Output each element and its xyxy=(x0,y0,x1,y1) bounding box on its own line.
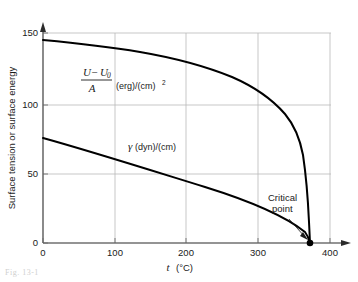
critical-point-leader xyxy=(289,219,308,240)
critical-point-label-line1: Critical xyxy=(268,192,297,203)
x-tick-label-300: 300 xyxy=(250,247,266,258)
y-axis xyxy=(40,22,46,243)
internal-energy-minus: − xyxy=(91,66,98,78)
x-axis-title: t (°C) xyxy=(166,261,193,273)
figure-caption-fragment: Fig. 13-1 xyxy=(5,268,39,277)
y-axis-title: Surface tension or surface energy xyxy=(6,66,17,209)
horizontal-gridlines xyxy=(43,33,331,174)
internal-energy-units-exponent: 2 xyxy=(162,79,166,86)
x-tick-label-100: 100 xyxy=(107,247,123,258)
y-axis-arrowhead xyxy=(40,22,46,32)
curve-surface-tension xyxy=(43,138,310,243)
critical-point-label-line2: point xyxy=(272,203,293,214)
internal-energy-label: U − U 0 A (erg)/(cm) 2 xyxy=(81,66,166,94)
y-tick-label-50: 50 xyxy=(27,168,38,179)
internal-energy-denominator: A xyxy=(88,82,96,94)
y-tick-label-150: 150 xyxy=(22,27,38,38)
gamma-symbol: γ xyxy=(128,140,133,152)
internal-energy-numerator-u0-subscript: 0 xyxy=(107,71,111,80)
x-axis-title-symbol: t xyxy=(166,261,170,273)
critical-point-marker xyxy=(307,240,314,247)
x-axis xyxy=(43,240,351,246)
x-tick-label-200: 200 xyxy=(178,247,194,258)
surface-tension-chart: 0 100 200 300 400 0 50 100 150 Surface t… xyxy=(0,0,358,282)
x-tick-label-0: 0 xyxy=(40,247,45,258)
x-tick-marks xyxy=(43,238,330,243)
y-tick-label-100: 100 xyxy=(22,99,38,110)
x-axis-arrowhead xyxy=(341,240,351,246)
y-tick-label-0: 0 xyxy=(33,237,38,248)
internal-energy-units: (erg)/(cm) xyxy=(116,81,156,91)
surface-tension-label: γ (dyn)/(cm) xyxy=(128,140,176,152)
gamma-units: (dyn)/(cm) xyxy=(135,142,176,152)
x-axis-title-unit: (°C) xyxy=(176,262,193,273)
x-tick-label-400: 400 xyxy=(322,247,338,258)
figure-container: 0 100 200 300 400 0 50 100 150 Surface t… xyxy=(0,0,358,282)
